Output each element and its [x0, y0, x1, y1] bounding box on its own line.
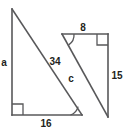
right-angle-square-icon [97, 34, 108, 45]
angle-arc-icon [69, 34, 74, 45]
figure-canvas: a 34 16 8 15 c [0, 0, 127, 132]
geometry-figure: a 34 16 8 15 c [0, 0, 127, 132]
left-triangle [12, 9, 82, 115]
label-side-c: c [68, 73, 74, 84]
left-triangle-hypotenuse [12, 9, 82, 115]
right-angle-square-icon [12, 104, 23, 115]
label-side-16: 16 [40, 118, 52, 129]
label-side-34: 34 [49, 56, 61, 67]
label-side-15: 15 [111, 70, 123, 81]
label-side-a: a [1, 57, 7, 68]
label-side-8: 8 [80, 22, 86, 33]
